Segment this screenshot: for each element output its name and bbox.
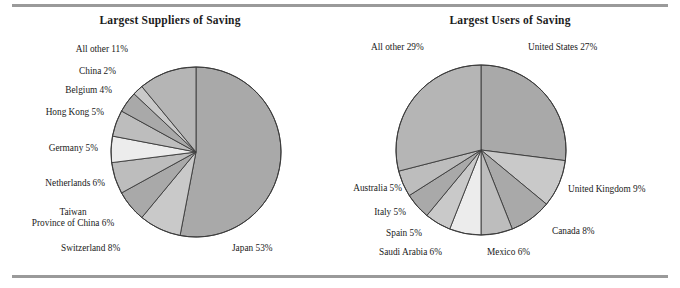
slice-label-united-kingdom: United Kingdom 9%	[568, 184, 680, 195]
slice-label-germany: Germany 5%	[0, 143, 98, 154]
slice-label-spain: Spain 5%	[340, 228, 422, 239]
slice-label-canada: Canada 8%	[552, 226, 652, 237]
slice-label-belgium: Belgium 4%	[0, 85, 112, 96]
slice-label-italy: Italy 5%	[340, 207, 406, 218]
slice-label-taiwan-line2: Province of China 6%	[6, 218, 140, 229]
chart-panel-users: Largest Users of Saving All other 29% Un…	[340, 0, 680, 288]
slice-label-switzerland: Switzerland 8%	[61, 243, 181, 254]
slice-label-australia: Australia 5%	[340, 183, 402, 194]
slice-label-hong-kong: Hong Kong 5%	[0, 107, 104, 118]
slice-label-united-states: United States 27%	[528, 42, 668, 53]
slice-label-all-other: All other 11%	[0, 44, 128, 55]
slice-label-all-other: All other 29%	[371, 42, 491, 53]
pie-slice	[481, 65, 566, 161]
slice-label-saudi-arabia: Saudi Arabia 6%	[379, 247, 489, 258]
slice-label-netherlands: Netherlands 6%	[0, 178, 105, 189]
slice-label-taiwan-line1: Taiwan	[6, 207, 140, 218]
slice-label-japan: Japan 53%	[232, 243, 342, 254]
figure-canvas: Largest Suppliers of Saving All other 11…	[0, 0, 680, 288]
slice-label-mexico: Mexico 6%	[487, 247, 577, 258]
slice-label-china: China 2%	[0, 66, 116, 77]
chart-panel-suppliers: Largest Suppliers of Saving All other 11…	[0, 0, 340, 288]
